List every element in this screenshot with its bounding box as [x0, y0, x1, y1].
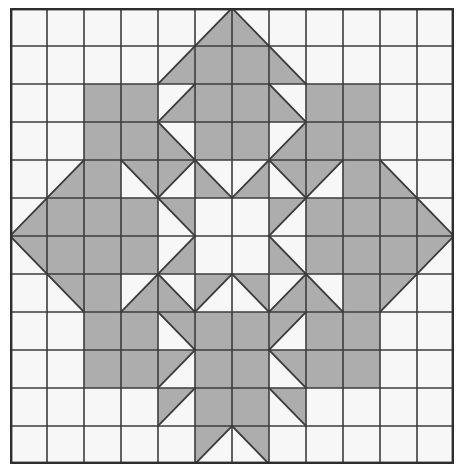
quilt-cell [195, 122, 232, 160]
quilt-cell [380, 198, 417, 236]
quilt-cell [84, 160, 121, 198]
quilt-cell [84, 84, 121, 122]
quilt-cell [121, 198, 158, 236]
quilt-cell [195, 84, 232, 122]
pattern-canvas [0, 0, 465, 473]
quilt-cell [232, 312, 269, 350]
quilt-cell [306, 312, 343, 350]
quilt-cell [306, 84, 343, 122]
quilt-cell [121, 350, 158, 388]
quilt-cell [84, 274, 121, 312]
quilt-cell [195, 312, 232, 350]
quilt-cell [343, 274, 380, 312]
quilt-cell [47, 236, 84, 274]
quilt-cell [306, 236, 343, 274]
quilt-cell [232, 46, 269, 84]
quilt-cell [343, 312, 380, 350]
quilt-cell [195, 46, 232, 84]
quilt-cell [343, 122, 380, 160]
quilt-cell [232, 84, 269, 122]
quilt-cell [121, 236, 158, 274]
quilt-cell [343, 350, 380, 388]
quilt-cell [47, 198, 84, 236]
quilt-cell [306, 122, 343, 160]
quilt-cell [84, 122, 121, 160]
quilt-cell [195, 388, 232, 426]
quilt-cell [380, 236, 417, 274]
quilt-pattern-svg [10, 8, 454, 464]
quilt-cell [121, 84, 158, 122]
quilt-cell [84, 198, 121, 236]
quilt-cell [84, 312, 121, 350]
quilt-cell [343, 198, 380, 236]
quilt-cell [343, 160, 380, 198]
quilt-cell [343, 236, 380, 274]
quilt-cell [195, 350, 232, 388]
quilt-cell [121, 312, 158, 350]
quilt-cell [232, 122, 269, 160]
quilt-cell [84, 236, 121, 274]
quilt-cell [306, 350, 343, 388]
quilt-block-frame [10, 8, 454, 464]
quilt-cell [84, 350, 121, 388]
quilt-cell [232, 388, 269, 426]
quilt-cell [121, 122, 158, 160]
quilt-cell [343, 84, 380, 122]
quilt-cell [306, 198, 343, 236]
quilt-cell [232, 350, 269, 388]
